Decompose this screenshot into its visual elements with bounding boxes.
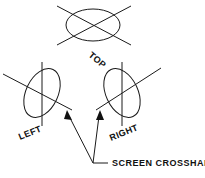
top-crosshair-group bbox=[57, 6, 131, 45]
top-label-group: TOP bbox=[87, 50, 108, 70]
right-label: RIGHT bbox=[108, 122, 140, 143]
right-label-group: RIGHT bbox=[108, 122, 140, 143]
leader-arrowhead-left bbox=[64, 110, 72, 120]
diagram-canvas: TOP LEFT RIGHT SCREEN CROS bbox=[0, 0, 205, 178]
right-crosshair-group bbox=[96, 62, 161, 126]
left-label: LEFT bbox=[17, 124, 43, 142]
leader-line-left bbox=[69, 116, 93, 163]
leader-arrowhead-right bbox=[96, 110, 104, 120]
left-crosshair-group bbox=[3, 62, 72, 126]
top-label: TOP bbox=[87, 50, 108, 70]
screen-crosshairs-diagram: TOP LEFT RIGHT SCREEN CROS bbox=[0, 0, 205, 178]
leader-line-right bbox=[93, 116, 99, 163]
callout-label: SCREEN CROSSHAIRS bbox=[112, 158, 205, 168]
left-label-group: LEFT bbox=[17, 124, 43, 142]
leader-lines-group bbox=[64, 110, 108, 163]
left-crosshair-line-diagonal bbox=[3, 74, 72, 110]
